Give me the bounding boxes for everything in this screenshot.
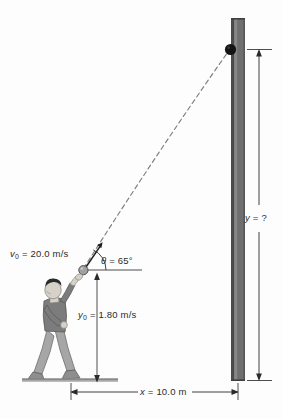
- wall-right-edge-icon: [243, 18, 245, 381]
- trajectory-group: [84, 51, 230, 269]
- wall-highlight: [234, 18, 237, 381]
- horizontal-distance-label: x = 10.0 m: [140, 386, 187, 397]
- initial-speed-value: = 20.0 m/s: [19, 248, 68, 259]
- angle-value: = 65°: [106, 255, 132, 266]
- initial-height-dimension-group: [94, 273, 100, 383]
- person-throwing-arm: [60, 283, 75, 303]
- ball-impact-icon: [225, 44, 236, 55]
- wall-left-edge-icon: [231, 18, 234, 381]
- velocity-vector-line: [84, 244, 102, 270]
- wall-top-cap: [231, 18, 245, 20]
- ball-at-wall-group: [225, 44, 236, 55]
- person-front-shoe: [62, 370, 80, 379]
- trajectory-path: [84, 51, 230, 269]
- unknown-height-arrowhead-up-icon: [256, 49, 262, 57]
- unknown-height-label: y = ?: [245, 212, 267, 223]
- launch-angle-label: θ = 65°: [101, 255, 133, 266]
- person-group: [28, 274, 83, 379]
- ball-launch-highlight: [81, 267, 84, 270]
- projectile-motion-figure: [0, 0, 282, 419]
- initial-height-label: y0 = 1.80 m/s: [78, 309, 137, 321]
- initial-height-arrowhead-up-icon: [94, 273, 100, 281]
- initial-speed-label: v0 = 20.0 m/s: [10, 248, 69, 260]
- person-other-hand: [61, 322, 68, 329]
- wall-bottom-cap: [231, 379, 245, 381]
- ball-impact-highlight: [227, 46, 230, 49]
- person-back-leg: [34, 330, 54, 374]
- horizontal-distance-value: = 10.0 m: [145, 386, 187, 397]
- ground-group: [22, 380, 118, 382]
- person-throwing-hand: [75, 274, 83, 280]
- unknown-height-arrowhead-down-icon: [256, 374, 262, 382]
- wall-group: [231, 18, 245, 381]
- person-front-leg: [55, 330, 75, 371]
- unknown-height-value: = ?: [250, 212, 267, 223]
- initial-height-value: = 1.80 m/s: [87, 309, 136, 320]
- ball-launch-icon: [79, 266, 88, 275]
